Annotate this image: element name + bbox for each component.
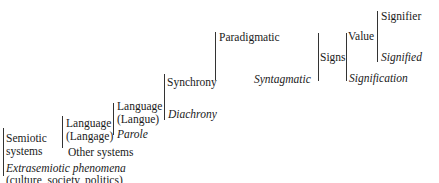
node-signified: Signified	[381, 51, 422, 64]
node-other-systems: Other systems	[68, 146, 133, 159]
label-language: Language	[66, 117, 113, 130]
label-langue: (Langue)	[117, 113, 162, 126]
bracket-semiotic-systems	[62, 116, 63, 148]
label-systems: systems	[6, 145, 47, 158]
node-signification: Signification	[349, 72, 408, 85]
node-value: Value	[348, 30, 374, 43]
node-language-langue: Language (Langue)	[117, 100, 162, 126]
bracket-language-langage	[113, 103, 114, 135]
bracket-synchrony	[215, 32, 216, 80]
label-language: Language	[117, 100, 162, 113]
node-language-langage: Language (Langage)	[66, 117, 113, 143]
node-synchrony: Synchrony	[167, 76, 217, 89]
node-extrasemiotic-sub: (culture, society, politics)	[6, 174, 123, 183]
bracket-signs	[346, 33, 347, 81]
node-signifier: Signifier	[381, 10, 421, 23]
label-langage: (Langage)	[66, 130, 113, 143]
label-semiotic: Semiotic	[6, 132, 47, 145]
bracket-syntagmatic	[318, 33, 319, 81]
node-semiotic-systems: Semiotic systems	[6, 132, 47, 158]
node-signs: Signs	[320, 51, 346, 64]
bracket-value	[377, 11, 378, 62]
bracket-root	[3, 128, 4, 176]
node-paradigmatic: Paradigmatic	[219, 31, 280, 44]
node-parole: Parole	[117, 128, 148, 141]
node-syntagmatic: Syntagmatic	[254, 73, 311, 86]
node-diachrony: Diachrony	[168, 108, 217, 121]
bracket-language-langue	[164, 74, 165, 120]
